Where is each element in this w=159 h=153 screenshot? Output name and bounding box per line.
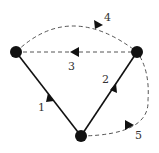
graph-canvas: 1 2 3 4 5 xyxy=(0,0,159,153)
edge-1-arrow-icon xyxy=(46,93,54,102)
node-right xyxy=(131,46,143,58)
node-bottom xyxy=(75,130,87,142)
edge-label-4: 4 xyxy=(104,11,111,24)
edge-label-2: 2 xyxy=(102,73,109,86)
edge-3-arrow-icon xyxy=(70,47,79,57)
edge-4 xyxy=(16,26,137,52)
node-left xyxy=(10,46,22,58)
edge-4-arrow-icon xyxy=(94,20,103,29)
edge-label-3: 3 xyxy=(68,60,75,73)
directed-graph-diagram: 1 2 3 4 5 xyxy=(0,0,159,153)
edge-5-arrow-icon xyxy=(125,120,134,130)
edge-label-5: 5 xyxy=(135,129,142,142)
edge-label-1: 1 xyxy=(38,101,45,114)
edge-5 xyxy=(81,52,148,136)
